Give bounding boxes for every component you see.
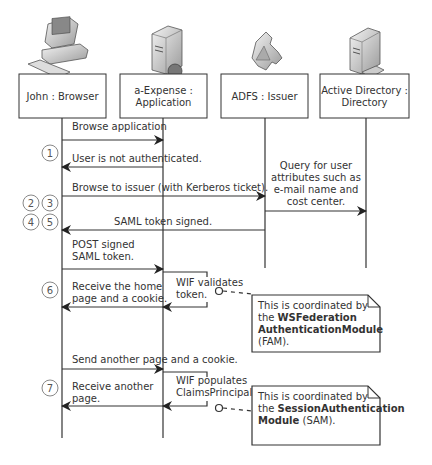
web-server-icon [152,26,182,78]
message-arrow: POST signedSAML token. [62,239,163,269]
participant-label: ADFS : Issuer [231,91,298,102]
sequence-diagram: John : Browsera-Expense :ApplicationADFS… [0,0,432,465]
participant-label: Directory [341,97,387,108]
message-arrow: Receive the homepage and a cookie. [62,281,167,307]
note-line: (FAM). [258,336,289,347]
note-line: the WSFederation [258,312,357,323]
participant-label: John : Browser [26,91,100,102]
message-label: User is not authenticated. [72,153,202,164]
step-marker: 6 [42,282,58,298]
step-number: 7 [47,383,53,394]
message-arrow: Browse application [62,121,167,140]
message-arrow: Query for userattributes such ase-mail n… [265,160,366,211]
note-line: AuthenticationModule [258,324,383,335]
participant-label: a-Expense : [134,85,193,96]
message-label: POST signed [72,239,135,250]
participant-app: a-Expense :Application [120,74,207,118]
message-label: e-mail name and [274,184,359,195]
message-arrow: User is not authenticated. [62,153,202,167]
self-call-label: WIF validates [176,277,243,288]
message-label: SAML token signed. [114,216,212,227]
participant-directory: Active Directory :Directory [320,74,409,118]
participant-browser: John : Browser [19,74,106,118]
note-line: Module (SAM). [258,415,335,426]
participant-label: Application [136,97,192,108]
message-arrow: Receive anotherpage. [62,381,163,406]
message-label: page. [72,393,100,404]
step-number: 6 [47,285,53,296]
participant-label: Active Directory : [321,85,408,96]
self-call: WIF validatestoken. [163,272,243,307]
self-call-label: ClaimsPrincipal. [176,387,255,398]
directory-server-icon [350,28,384,78]
step-number: 5 [47,217,53,228]
message-label: page and a cookie. [72,293,167,304]
note-line: This is coordinated by [257,391,368,402]
step-marker: 7 [42,380,58,396]
self-call-label: WIF populates [176,375,247,386]
message-arrow: Browse to issuer (with Kerberos ticket). [62,182,268,196]
note-line: the SessionAuthentication [258,403,405,414]
step-marker: 23 [23,195,58,211]
step-number: 2 [28,198,34,209]
participant-issuer: ADFS : Issuer [221,74,308,118]
message-label: Browse application [72,121,167,132]
note-line: This is coordinated by [257,300,368,311]
message-arrow: Send another page and a cookie. [62,354,238,369]
message-label: Send another page and a cookie. [72,354,238,365]
self-call: WIF populatesClaimsPrincipal. [163,372,255,406]
message-label: Receive the home [72,281,162,292]
message-label: attributes such as [271,172,361,183]
step-number: 1 [47,148,53,159]
step-marker: 45 [23,214,58,230]
message-label: Browse to issuer (with Kerberos ticket). [72,182,268,193]
message-label: SAML token. [72,251,134,262]
step-marker: 1 [42,145,58,161]
message-label: Query for user [280,160,353,171]
message-label: Receive another [72,381,154,392]
step-number: 4 [28,217,34,228]
step-number: 3 [47,198,53,209]
issuer-puzzle-icon [252,32,282,70]
note-callout: This is coordinated bythe WSFederationAu… [216,288,384,353]
desktop-computer-icon [28,17,88,78]
message-label: cost center. [287,196,345,207]
self-call-label: token. [176,289,207,300]
